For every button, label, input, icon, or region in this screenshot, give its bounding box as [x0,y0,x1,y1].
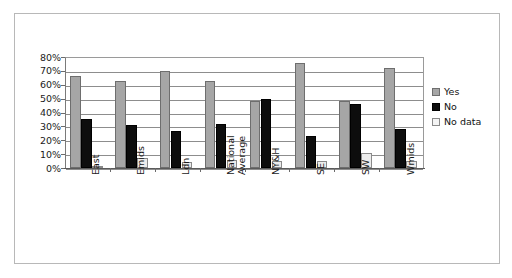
x-axis-tick-mark [110,168,111,172]
x-axis-tick-mark [334,168,335,172]
x-axis-category-label: National Average [226,105,247,175]
bar-yes [160,71,171,168]
y-axis-tick-label: 60% [21,80,61,89]
y-axis-tick-label: 10% [21,150,61,159]
x-axis-category-label: NY&H [271,105,282,175]
x-axis-category-label: East [91,105,102,175]
legend-swatch-icon [432,103,440,111]
gridline [66,72,423,73]
x-axis-tick-mark [289,168,290,172]
legend-swatch-icon [432,118,440,126]
bar-yes [295,63,306,168]
y-axis-tick-label: 80% [21,53,61,62]
x-axis-category-label: SW [361,105,372,175]
y-axis-tick-label: 50% [21,94,61,103]
y-axis-tick-label: 40% [21,108,61,117]
bar-yes [250,101,261,168]
bar-no [350,104,361,168]
x-axis-tick-mark [155,168,156,172]
bar-yes [70,76,81,168]
chart-legend: YesNoNo data [432,84,498,129]
x-axis-category-label: Wmids [406,105,417,175]
x-axis-category-label: SE [316,105,327,175]
y-axis-tick-label: 70% [21,66,61,75]
legend-item: No [432,99,498,114]
bar-yes [205,81,216,168]
legend-label: No data [444,116,481,127]
x-axis-category-label: Emids [136,105,147,175]
y-axis-tick-label: 20% [21,136,61,145]
x-axis-tick-mark [379,168,380,172]
y-axis-tick-label: 30% [21,122,61,131]
x-axis-tick-mark [200,168,201,172]
chart-screenshot: 80%70%60%50%40%30%20%10%0% EastEmidsLdnN… [0,0,512,278]
bar-yes [339,101,350,168]
y-axis-tick-label: 0% [21,164,61,173]
x-axis-category-label: Ldn [181,105,192,175]
legend-item: Yes [432,84,498,99]
bar-yes [115,81,126,168]
y-axis: 80%70%60%50%40%30%20%10%0% [18,57,61,168]
legend-swatch-icon [432,88,440,96]
legend-label: Yes [444,86,459,97]
legend-label: No [444,101,457,112]
bar-yes [384,68,395,168]
legend-item: No data [432,114,498,129]
